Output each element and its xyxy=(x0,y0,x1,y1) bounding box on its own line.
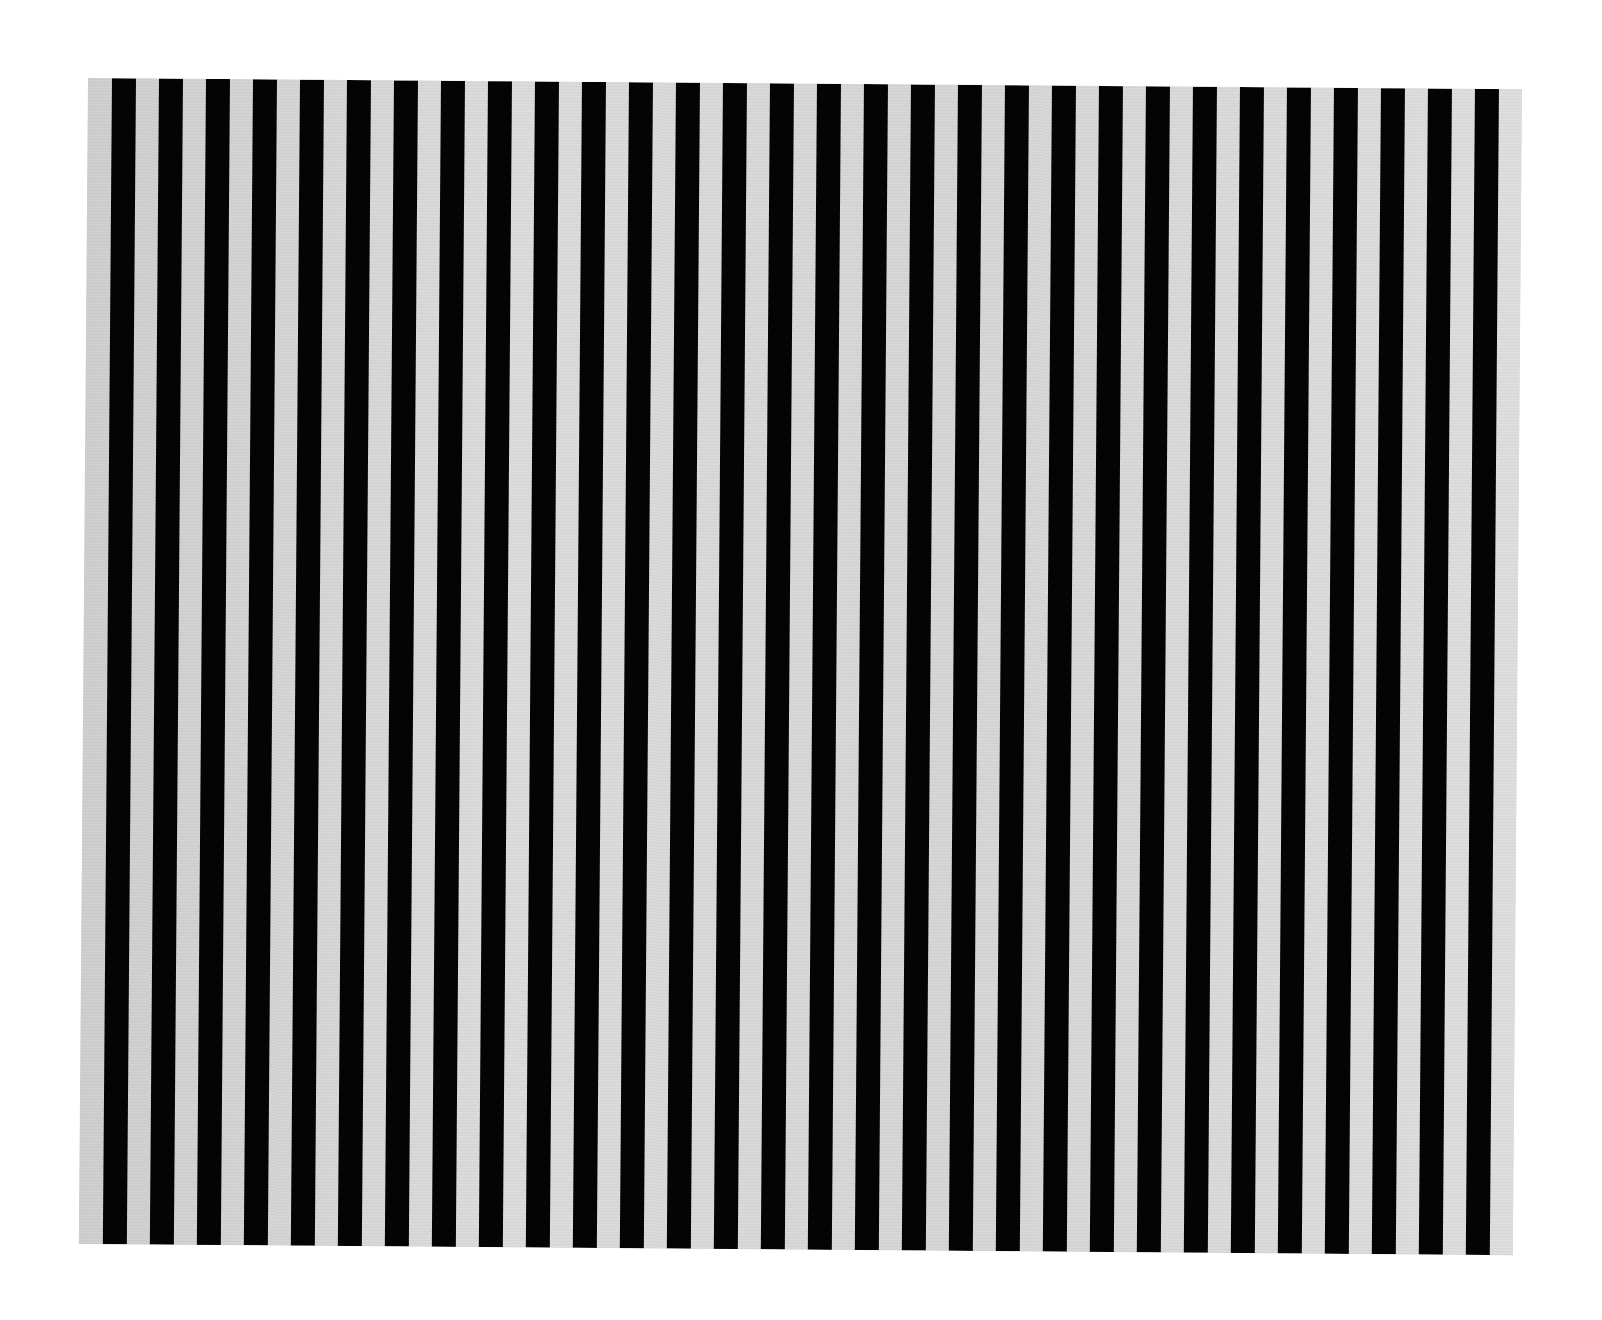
striped-artwork: Black vertical stripes on light grey tex… xyxy=(79,78,1522,1255)
